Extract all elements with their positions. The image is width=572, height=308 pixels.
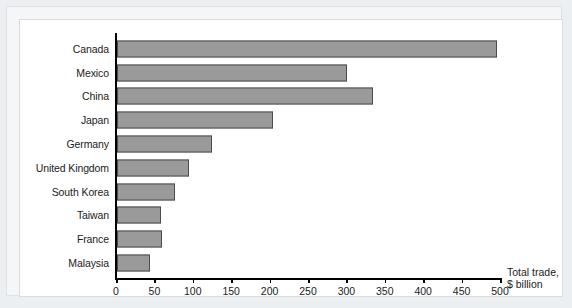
bar-row: South Korea xyxy=(20,180,564,204)
x-axis-title: Total trade,$ billion xyxy=(507,267,559,290)
bar xyxy=(117,112,273,129)
bar-row: China xyxy=(20,85,564,109)
bar-row: France xyxy=(20,227,564,251)
bar-track xyxy=(117,64,501,81)
x-tick-label: 50 xyxy=(149,285,161,297)
bar-track xyxy=(117,40,501,57)
x-tick xyxy=(231,278,233,283)
bar xyxy=(117,40,497,57)
x-axis-title-line: Total trade, xyxy=(507,267,559,279)
chart-page: CanadaMexicoChinaJapanGermanyUnited King… xyxy=(0,0,572,308)
x-tick-label: 250 xyxy=(299,285,317,297)
bar xyxy=(117,136,212,153)
x-tick xyxy=(423,278,425,283)
category-label: United Kingdom xyxy=(36,162,109,174)
bar xyxy=(117,207,161,224)
bar-row: Mexico xyxy=(20,61,564,85)
bar xyxy=(117,231,162,248)
x-tick xyxy=(270,278,272,283)
bar-row: Japan xyxy=(20,108,564,132)
bar-row: Canada xyxy=(20,37,564,61)
x-tick xyxy=(193,278,195,283)
bar-track xyxy=(117,88,501,105)
bar xyxy=(117,88,373,105)
x-tick-label: 0 xyxy=(113,285,119,297)
category-label: Mexico xyxy=(76,67,109,79)
bar-row: Germany xyxy=(20,132,564,156)
x-axis-title-line: $ billion xyxy=(507,279,559,291)
x-tick-label: 200 xyxy=(261,285,279,297)
bar-track xyxy=(117,255,501,272)
bar xyxy=(117,183,175,200)
x-tick-label: 350 xyxy=(376,285,394,297)
bar-track xyxy=(117,183,501,200)
category-label: Taiwan xyxy=(77,209,109,221)
x-tick xyxy=(308,278,310,283)
chart-panel: CanadaMexicoChinaJapanGermanyUnited King… xyxy=(19,19,563,297)
category-label: Canada xyxy=(73,43,109,55)
x-tick xyxy=(462,278,464,283)
x-tick xyxy=(154,278,156,283)
bar-row: Malaysia xyxy=(20,251,564,275)
bar-track xyxy=(117,231,501,248)
x-tick xyxy=(346,278,348,283)
category-label: France xyxy=(77,233,109,245)
x-tick-label: 100 xyxy=(184,285,202,297)
bar-track xyxy=(117,136,501,153)
bar-track xyxy=(117,112,501,129)
outer-frame: CanadaMexicoChinaJapanGermanyUnited King… xyxy=(6,6,562,296)
bar xyxy=(117,255,150,272)
x-tick xyxy=(385,278,387,283)
category-label: Germany xyxy=(67,138,109,150)
x-tick-label: 400 xyxy=(414,285,432,297)
plot-area: CanadaMexicoChinaJapanGermanyUnited King… xyxy=(20,20,564,298)
bar-row: Taiwan xyxy=(20,204,564,228)
bar xyxy=(117,159,189,176)
bar-rows: CanadaMexicoChinaJapanGermanyUnited King… xyxy=(20,37,564,275)
x-tick-label: 450 xyxy=(453,285,471,297)
x-tick-label: 300 xyxy=(338,285,356,297)
x-tick-label: 150 xyxy=(222,285,240,297)
bar xyxy=(117,64,347,81)
x-tick xyxy=(500,278,502,283)
x-tick xyxy=(116,278,118,283)
category-label: South Korea xyxy=(52,186,109,198)
category-label: Malaysia xyxy=(68,257,109,269)
bar-track xyxy=(117,159,501,176)
bar-row: United Kingdom xyxy=(20,156,564,180)
category-label: Japan xyxy=(81,114,109,126)
bar-track xyxy=(117,207,501,224)
category-label: China xyxy=(82,90,109,102)
